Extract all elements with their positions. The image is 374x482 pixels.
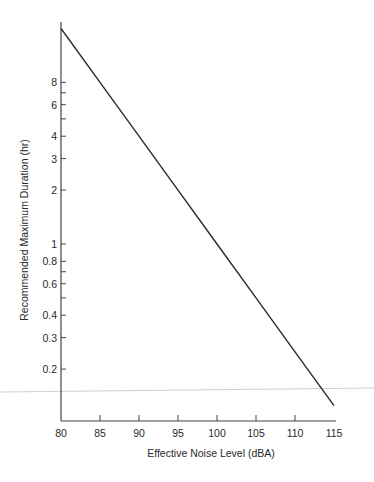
x-tick-label: 80 xyxy=(55,427,67,439)
x-tick-label: 90 xyxy=(133,427,145,439)
x-tick-label: 95 xyxy=(172,427,184,439)
x-tick-label: 85 xyxy=(94,427,106,439)
y-tick-label: 6 xyxy=(51,99,57,111)
axes xyxy=(61,22,336,421)
x-tick-label: 100 xyxy=(208,427,226,439)
y-tick-label: 0.4 xyxy=(42,309,57,321)
x-tick-label: 105 xyxy=(247,427,265,439)
y-tick-label: 3 xyxy=(51,153,57,165)
y-tick-label: 8 xyxy=(51,76,57,88)
data-series xyxy=(61,29,334,406)
data-line xyxy=(61,29,334,406)
x-axis-ticks: 80859095100105110115 xyxy=(55,415,342,439)
x-tick-label: 115 xyxy=(326,427,343,439)
y-tick-label: 4 xyxy=(51,130,57,142)
y-tick-label: 2 xyxy=(51,184,57,196)
x-axis-title: Effective Noise Level (dBA) xyxy=(147,447,275,459)
x-tick-label: 110 xyxy=(287,427,304,439)
y-tick-label: 1 xyxy=(51,238,57,250)
chart: 8643210.80.60.40.30.2 808590951001051101… xyxy=(0,0,374,482)
y-tick-label: 0.6 xyxy=(42,278,57,290)
y-axis-ticks: 8643210.80.60.40.30.2 xyxy=(42,76,66,375)
y-tick-label: 0.3 xyxy=(42,332,57,344)
y-tick-label: 0.2 xyxy=(42,363,57,375)
y-axis-title: Recommended Maximum Duration (hr) xyxy=(18,139,30,320)
y-tick-label: 0.8 xyxy=(42,255,57,267)
scan-line xyxy=(0,388,374,392)
